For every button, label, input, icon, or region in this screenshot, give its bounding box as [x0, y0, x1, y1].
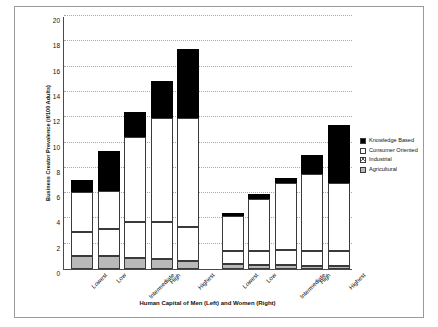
bar-segment-consumer-oriented [301, 174, 323, 251]
legend: Knowledge BasedConsumer OrientedIndustri… [360, 138, 422, 176]
bar-segment-agricultural [222, 264, 244, 269]
bar-segment-industrial [124, 222, 146, 257]
legend-item: Knowledge Based [360, 138, 422, 144]
legend-swatch-kb [360, 138, 366, 144]
y-tick-label: 18 [42, 42, 60, 49]
bar-segment-industrial [275, 250, 297, 265]
bar-segment-knowledge-based [124, 112, 146, 137]
gridline [64, 15, 352, 16]
bar-segment-agricultural [301, 266, 323, 269]
legend-label: Industrial [369, 157, 392, 163]
y-tick-label: 6 [42, 194, 60, 201]
bar-segment-knowledge-based [248, 194, 270, 199]
y-axis-tick-labels: 20181614121086420 [40, 10, 60, 276]
legend-item: Industrial [360, 157, 422, 163]
bar-segment-agricultural [71, 256, 93, 269]
bar-segment-consumer-oriented [222, 216, 244, 251]
bar-segment-industrial [98, 229, 120, 257]
legend-label: Consumer Oriented [369, 148, 418, 154]
bar-segment-consumer-oriented [151, 118, 173, 222]
bar-segment-consumer-oriented [124, 137, 146, 222]
y-tick-label: 20 [42, 17, 60, 24]
bar-segment-agricultural [151, 259, 173, 269]
bar-segment-industrial [222, 251, 244, 264]
bar-segment-agricultural [177, 261, 199, 269]
bar-segment-knowledge-based [328, 125, 350, 183]
bar-segment-knowledge-based [98, 151, 120, 190]
bar-segment-agricultural [275, 265, 297, 269]
bar-segment-knowledge-based [222, 213, 244, 216]
y-tick-label: 8 [42, 169, 60, 176]
plot-area [63, 17, 352, 270]
legend-swatch-ind [360, 157, 366, 163]
bar-segment-knowledge-based [151, 81, 173, 119]
bar-segment-agricultural [328, 266, 350, 269]
y-tick-label: 0 [42, 270, 60, 277]
bar-segment-agricultural [98, 256, 120, 269]
y-tick-label: 2 [42, 245, 60, 252]
y-tick-label: 16 [42, 68, 60, 75]
y-axis-title-wrapper: Business Creator Prevalence (if/100 Adul… [22, 20, 36, 270]
y-tick-label: 10 [42, 144, 60, 151]
bar-segment-knowledge-based [177, 49, 199, 119]
bar-segment-industrial [177, 227, 199, 261]
bar-segment-knowledge-based [71, 180, 93, 191]
bar-segment-industrial [328, 251, 350, 266]
bar-segment-knowledge-based [301, 155, 323, 174]
bar-segment-industrial [248, 251, 270, 265]
y-tick-label: 4 [42, 219, 60, 226]
bar-segment-consumer-oriented [275, 183, 297, 250]
bar-series-container [64, 17, 352, 269]
bar-segment-consumer-oriented [248, 199, 270, 251]
bar-segment-agricultural [124, 258, 146, 269]
legend-label: Knowledge Based [369, 138, 414, 144]
y-tick-label: 14 [42, 93, 60, 100]
chart-root: Business Creator Prevalence (if/100 Adul… [0, 0, 438, 327]
legend-swatch-agr [360, 167, 366, 173]
bar-segment-industrial [151, 222, 173, 259]
x-axis-title: Human Capital of Men (Left) and Women (R… [63, 300, 352, 306]
y-tick-label: 12 [42, 118, 60, 125]
bar-segment-consumer-oriented [71, 192, 93, 232]
legend-label: Agricultural [369, 167, 397, 173]
legend-item: Agricultural [360, 167, 422, 173]
bar-segment-consumer-oriented [177, 118, 199, 227]
bar-segment-knowledge-based [275, 178, 297, 183]
bar-segment-industrial [301, 251, 323, 266]
bar-segment-agricultural [248, 265, 270, 269]
bar-segment-consumer-oriented [98, 191, 120, 229]
bar-segment-industrial [71, 232, 93, 256]
legend-swatch-co [360, 148, 366, 154]
bar-segment-consumer-oriented [328, 183, 350, 251]
legend-item: Consumer Oriented [360, 148, 422, 154]
